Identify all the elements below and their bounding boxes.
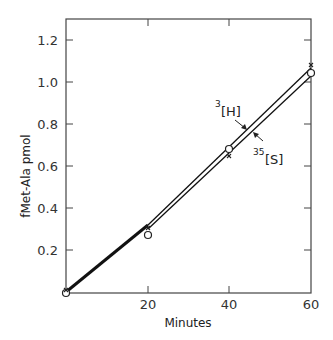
y-tick-label: 0.8 (37, 117, 58, 132)
top-ticks (148, 19, 229, 26)
annotation-35s-label: [S] (265, 152, 283, 167)
fit-lines (66, 68, 311, 292)
x-axis-title: Minutes (164, 316, 211, 330)
annotation-3h: 3 [H] (215, 99, 247, 130)
circle-marker (226, 146, 233, 153)
circle-marker (308, 70, 315, 77)
y-tick-label: 1.2 (37, 33, 58, 48)
y-tick-label: 0.6 (37, 159, 58, 174)
x-tick-label: 60 (303, 297, 320, 312)
y-tick-label: 0.4 (37, 201, 58, 216)
y-tick-label: 0.2 (37, 243, 58, 258)
y-tick-labels: 1.2 1.0 0.8 0.6 0.4 0.2 (37, 33, 58, 258)
fit-line-segment (66, 225, 148, 292)
x-ticks (148, 286, 229, 293)
annotation-3h-label: [H] (221, 104, 241, 119)
x-tick-label: 20 (140, 297, 157, 312)
y-axis-title: fMet-Ala pmol (19, 134, 33, 217)
circle-marker (145, 232, 152, 239)
y-tick-label: 1.0 (37, 75, 58, 90)
series-3h-markers (64, 63, 313, 292)
y-ticks (66, 40, 73, 250)
annotation-35s: 35 [S] (253, 132, 283, 167)
annotation-3h-superscript: 3 (215, 99, 221, 109)
x-tick-labels: 20 40 60 (140, 297, 320, 312)
chart: 1.2 1.0 0.8 0.6 0.4 0.2 20 40 60 Minutes… (0, 0, 333, 340)
x-tick-label: 40 (221, 297, 238, 312)
x-marker (227, 154, 231, 158)
annotation-35s-superscript: 35 (253, 147, 264, 157)
